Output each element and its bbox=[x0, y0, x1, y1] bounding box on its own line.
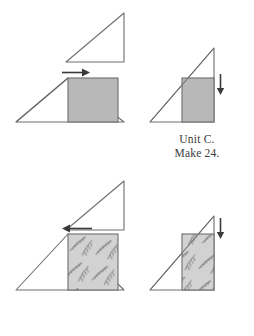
unit-d-piece-triangle bbox=[66, 181, 124, 230]
unit-c-caption: Unit C. Make 24. bbox=[140, 133, 254, 160]
unit-c-assembled-square bbox=[150, 48, 214, 122]
unit-d-press-arrow-down bbox=[217, 218, 224, 239]
unit-c-press-arrow-right bbox=[62, 69, 90, 77]
diagram-sheet: Unit C. Make 24. bbox=[0, 0, 254, 336]
unit-d-diagram-group: Unit D. Make 24. bbox=[0, 168, 254, 336]
unit-c-caption-name: Unit C. bbox=[140, 133, 254, 147]
unit-c-piece-triangle bbox=[66, 13, 124, 62]
unit-c-diagram-group: Unit C. Make 24. bbox=[0, 0, 254, 168]
unit-c-press-arrow-down bbox=[217, 74, 224, 95]
unit-d-assembled-square bbox=[150, 216, 214, 290]
unit-c-piece-square-solid-gray bbox=[68, 78, 118, 122]
unit-c-caption-quantity: Make 24. bbox=[140, 147, 254, 161]
unit-d-piece-square-floral-print bbox=[68, 234, 118, 290]
unit-d-illustration bbox=[0, 168, 254, 336]
